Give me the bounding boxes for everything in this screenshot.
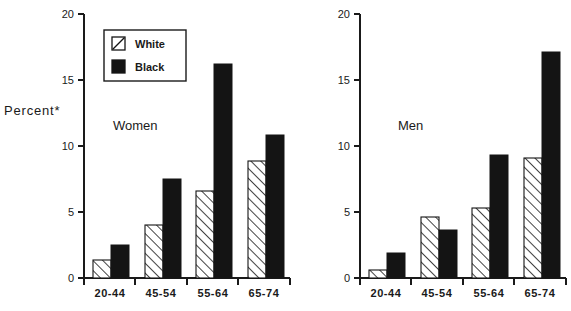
panel-men: 20 15 10 5 0	[338, 8, 566, 299]
y-tick-label-5-men: 5	[344, 206, 350, 218]
y-tick-label-10-men: 10	[338, 140, 350, 152]
bar-men-black-20-44	[387, 253, 405, 278]
bar-women-white-20-44	[93, 260, 111, 278]
panel-label-men: Men	[398, 118, 423, 133]
panel-women: 20 15 10 5 0	[62, 8, 290, 299]
x-category-label-55-64-men: 55-64	[473, 287, 504, 299]
y-tick-label-15-women: 15	[62, 74, 74, 86]
y-tick-label-10-women: 10	[62, 140, 74, 152]
y-tick-label-20-men: 20	[338, 8, 350, 20]
bar-men-black-55-64	[490, 155, 508, 278]
x-category-label-20-44-women: 20-44	[94, 287, 125, 299]
bar-women-white-65-74	[248, 161, 266, 278]
y-axis-title: Percent*	[4, 103, 60, 118]
y-tick-label-20-women: 20	[62, 8, 74, 20]
y-tick-label-5-women: 5	[68, 206, 74, 218]
legend-label-white: White	[135, 38, 165, 50]
x-category-label-55-64-women: 55-64	[197, 287, 228, 299]
x-category-label-20-44-men: 20-44	[370, 287, 401, 299]
y-tick-label-15-men: 15	[338, 74, 350, 86]
figure-container: Percent* 20 15 10 5 0	[0, 0, 571, 311]
y-tick-label-0-women: 0	[68, 272, 74, 284]
bar-men-black-65-74	[542, 52, 560, 278]
bar-women-black-65-74	[266, 135, 284, 278]
x-ticks-men	[360, 278, 566, 285]
x-category-label-45-54-men: 45-54	[421, 287, 452, 299]
bar-men-white-20-44	[369, 270, 387, 278]
legend-black-swatch-icon	[112, 60, 125, 73]
bar-men-white-65-74	[524, 158, 542, 278]
bar-men-white-45-54	[421, 217, 439, 278]
legend: White Black	[104, 30, 186, 81]
y-ticks-women: 20 15 10 5 0	[62, 8, 84, 284]
bar-men-white-55-64	[472, 208, 490, 278]
bar-women-black-45-54	[163, 179, 181, 278]
x-ticks-women	[84, 278, 290, 285]
x-category-label-45-54-women: 45-54	[145, 287, 176, 299]
y-ticks-men: 20 15 10 5 0	[338, 8, 360, 284]
bar-men-black-45-54	[439, 230, 457, 278]
bar-chart-figure: Percent* 20 15 10 5 0	[0, 0, 571, 311]
x-category-label-65-74-women: 65-74	[248, 287, 279, 299]
bar-women-white-45-54	[145, 225, 163, 278]
bar-women-black-20-44	[111, 245, 129, 278]
legend-label-black: Black	[135, 61, 165, 73]
x-category-label-65-74-men: 65-74	[524, 287, 555, 299]
y-tick-label-0-men: 0	[344, 272, 350, 284]
panel-label-women: Women	[113, 118, 158, 133]
bar-women-white-55-64	[196, 191, 214, 278]
bar-women-black-55-64	[214, 64, 232, 278]
